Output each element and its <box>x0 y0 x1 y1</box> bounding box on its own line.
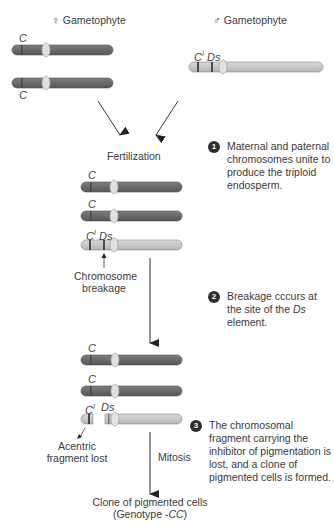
male-gametophyte-label: Gametophyte <box>224 14 287 26</box>
male-symbol-icon: ♂ <box>213 14 221 26</box>
endosperm-chromosome-1 <box>81 180 182 194</box>
step-2-badge: 2 <box>208 291 220 303</box>
gene-label-ci-ds-male: CI Ds <box>194 48 220 63</box>
male-to-fertilization-arrow <box>156 101 178 135</box>
female-chromosome-1 <box>12 43 113 57</box>
gene-label-c-post-2: C <box>88 373 96 385</box>
gene-label-c-post-1: C <box>88 342 96 354</box>
gene-label-c-female-2: C <box>19 89 27 101</box>
acentric-fragment-label: Acentric fragment lost <box>42 440 112 464</box>
chromosome-breakage-label: Chromosome breakage <box>74 270 134 294</box>
female-symbol-icon: ♀ <box>52 14 60 26</box>
step-3: 3 The chromosomal fragment carrying the … <box>190 419 334 484</box>
post-break-chromosome-2 <box>81 384 182 398</box>
clone-of-pigmented-cells-label: Clone of pigmented cells (Genotype -CC) <box>80 496 220 520</box>
mitosis-label: Mitosis <box>158 451 191 463</box>
gene-label-ci-ds-endo: CI Ds <box>86 227 112 242</box>
step-2: 2 Breakage cccurs at the site of the Ds … <box>208 290 332 329</box>
step-1-badge: 1 <box>208 141 220 153</box>
fertilization-label: Fertilization <box>107 150 161 162</box>
centric-fragment <box>105 412 182 426</box>
gene-label-ds-post: Ds <box>101 401 114 413</box>
female-gametophyte-header: ♀ Gametophyte <box>52 14 126 26</box>
step-1: 1 Maternal and paternal chromosomes unit… <box>208 140 332 192</box>
step-2-text: Breakage cccurs at the site of the Ds el… <box>227 290 332 329</box>
acentric-pointer <box>80 428 85 437</box>
gene-label-ci-post: CI <box>85 401 95 416</box>
step-1-text: Maternal and paternal chromosomes unite … <box>227 140 332 192</box>
male-gametophyte-header: ♂ Gametophyte <box>213 14 287 26</box>
female-to-fertilization-arrow <box>98 101 120 135</box>
breakage-pointer-arrowhead <box>102 253 107 258</box>
step-3-badge: 3 <box>190 420 202 432</box>
post-break-chromosome-1 <box>81 353 182 367</box>
gene-label-c-female-1: C <box>19 32 27 44</box>
female-gametophyte-label: Gametophyte <box>63 14 126 26</box>
step-3-text: The chromosomal fragment carrying the in… <box>209 419 334 484</box>
female-chromosome-2 <box>12 76 113 90</box>
gene-label-c-endo-2: C <box>88 198 96 210</box>
endosperm-chromosome-2 <box>81 209 182 223</box>
gene-label-c-endo-1: C <box>88 169 96 181</box>
